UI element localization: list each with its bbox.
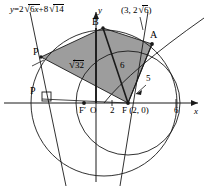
coord-a-radical: √6 xyxy=(138,5,149,15)
x-axis-label: x xyxy=(194,107,198,116)
point-label-b: B xyxy=(92,17,99,27)
x-tick-label-6: 6 xyxy=(174,106,179,115)
equation-var: x xyxy=(35,4,39,14)
figure-canvas: y=2√6x+8√14 (3, 2√6) y x B A P P F′ O 2 … xyxy=(0,0,208,189)
x-tick-label-2: 2 xyxy=(110,106,115,115)
equation-radicand-2: 14 xyxy=(55,4,64,14)
point-dot-b xyxy=(101,26,104,29)
segment-length-label-6: 6 xyxy=(120,61,125,70)
coord-a-radicand: 6 xyxy=(144,5,149,15)
leader-line-coord-a xyxy=(140,17,143,30)
equation-radical-1: √6x xyxy=(24,4,39,14)
hatch-mark-line xyxy=(32,60,44,66)
y-axis-label: y xyxy=(98,6,102,15)
leader-arrow-5 xyxy=(136,90,142,95)
equation-radical-2: √14 xyxy=(48,4,64,14)
segment-length-label-5: 5 xyxy=(146,74,151,83)
triangle-area-label: √32 xyxy=(68,59,84,70)
point-label-a: A xyxy=(150,30,157,40)
point-dot-p-upper xyxy=(39,55,42,58)
area-radical: √32 xyxy=(68,60,84,70)
point-label-f: F (2, 0) xyxy=(122,106,149,115)
point-label-p-upper: P xyxy=(33,47,39,57)
coord-a-open: (3, 2 xyxy=(121,5,138,15)
point-dot-a xyxy=(150,42,154,46)
equation-coeff-1: 2 xyxy=(19,4,24,14)
point-label-f-prime: F′ xyxy=(79,106,86,115)
point-a-coordinate-label: (3, 2√6) xyxy=(121,5,152,15)
line-equation: y=2√6x+8√14 xyxy=(10,4,64,14)
point-label-p-lower: P xyxy=(30,86,36,96)
area-radicand: 32 xyxy=(75,60,84,70)
origin-label: O xyxy=(90,106,97,115)
